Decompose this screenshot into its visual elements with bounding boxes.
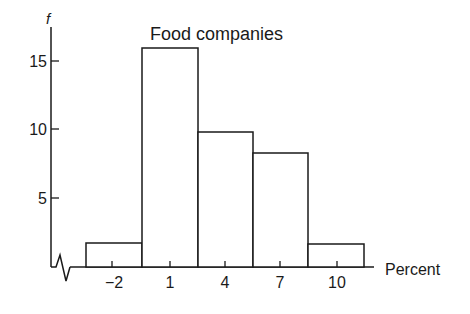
histogram-bars (86, 48, 364, 267)
x-axis-label: Percent (385, 261, 441, 278)
y-tick-label-15: 15 (29, 53, 47, 70)
x-axis-break-icon (51, 255, 70, 281)
bar-10 (308, 244, 364, 267)
bar-4 (198, 132, 253, 267)
y-tick-label-5: 5 (38, 190, 47, 207)
y-tick-label-10: 10 (29, 121, 47, 138)
bar-1 (142, 48, 198, 267)
x-tick-label-4: 4 (221, 274, 230, 291)
histogram-chart: Food companies f 15 10 5 −2 1 4 7 10 Per… (0, 0, 470, 314)
bar-minus2 (86, 243, 142, 267)
x-tick-label-minus2: −2 (105, 274, 123, 291)
x-tick-label-7: 7 (276, 274, 285, 291)
x-tick-label-1: 1 (166, 274, 175, 291)
chart-title: Food companies (150, 24, 283, 44)
y-ticks: 15 10 5 (29, 53, 59, 207)
y-axis-label: f (46, 10, 52, 27)
bar-7 (253, 153, 308, 267)
x-tick-label-10: 10 (328, 274, 346, 291)
